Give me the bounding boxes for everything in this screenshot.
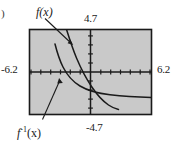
item-letter: ): [1, 8, 5, 19]
y-min-label: -4.7: [86, 122, 103, 133]
inverse-label-arg: (x): [27, 126, 41, 140]
y-max-label: 4.7: [84, 13, 97, 24]
x-min-label: -6.2: [1, 64, 18, 75]
inverse-label-exponent: -1: [20, 125, 27, 134]
curve-f-label: f(x): [36, 6, 53, 18]
graph-figure: ) f(x) f-1(x) 4.7 -4.7 -6.2 6.2: [0, 0, 177, 143]
x-max-label: 6.2: [157, 64, 170, 75]
curve-f-inverse-label: f-1(x): [17, 126, 41, 139]
